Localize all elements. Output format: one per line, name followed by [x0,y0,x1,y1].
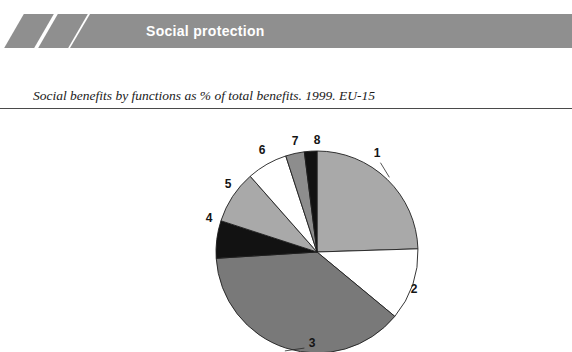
pie-label-4: 4 [206,211,213,225]
pie-label-6: 6 [259,143,266,157]
header-banner: Social protection [0,14,572,48]
pie-slice-1 [317,151,418,252]
pie-chart-figure: 12345678 [0,112,572,352]
horizontal-rule [0,108,572,109]
pie-label-5: 5 [225,177,232,191]
pie-label-8: 8 [314,133,321,147]
pie-label-7: 7 [292,134,299,148]
chart-caption: Social benefits by functions as % of tot… [33,88,375,104]
page-title: Social protection [146,14,265,48]
pie-slice-group [216,151,418,352]
pie-label-1: 1 [374,146,381,160]
pie-label-2: 2 [411,282,418,296]
pie-label-3: 3 [309,336,316,350]
pie-chart-svg: 12345678 [0,112,572,352]
